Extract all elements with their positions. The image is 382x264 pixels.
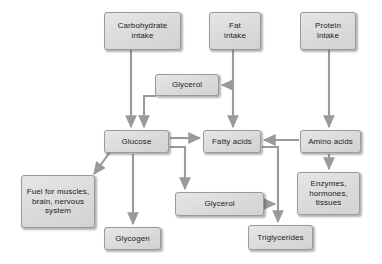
flowchart-diagram: Carbohydrateintake Fatintake Proteininta…	[0, 0, 382, 264]
node-triglycerides: Triglycerides	[248, 225, 313, 250]
node-label-glycerol-upper: Glycerol	[170, 80, 204, 90]
node-label-carbohydrate-intake: Carbohydrateintake	[116, 21, 170, 41]
edge-glucose-to-glycerol-lower	[170, 147, 185, 189]
node-label-fat-intake: Fatintake	[222, 21, 248, 41]
edge-fatty-acids-to-triglycerides	[262, 147, 278, 222]
node-fat-intake: Fatintake	[209, 12, 261, 50]
node-label-glycogen: Glycogen	[113, 234, 152, 244]
node-glycerol-lower: Glycerol	[175, 192, 264, 216]
node-glycerol-upper: Glycerol	[155, 74, 219, 96]
node-label-enzymes-hormones-tissues: Enzymes,hormones,tissues	[307, 179, 350, 208]
edge-glycerol-upper-to-glucose	[144, 96, 156, 127]
node-amino-acids: Amino acids	[300, 130, 361, 153]
node-fuel-for-muscles: Fuel for muscles,brain, nervoussystem	[21, 175, 95, 228]
node-carbohydrate-intake: Carbohydrateintake	[104, 12, 181, 50]
node-label-fatty-acids: Fatty acids	[210, 137, 254, 147]
node-protein-intake: Proteinintake	[300, 12, 356, 50]
node-label-triglycerides: Triglycerides	[255, 233, 305, 243]
node-label-protein-intake: Proteinintake	[313, 21, 343, 41]
node-label-glycerol-lower: Glycerol	[202, 199, 236, 209]
node-label-glucose: Glucose	[119, 137, 153, 147]
node-label-fuel-for-muscles: Fuel for muscles,brain, nervoussystem	[25, 187, 92, 216]
node-glucose: Glucose	[104, 130, 169, 153]
node-enzymes-hormones-tissues: Enzymes,hormones,tissues	[297, 172, 360, 215]
edge-glucose-to-fuel	[94, 152, 110, 174]
node-label-amino-acids: Amino acids	[306, 137, 355, 147]
node-glycogen: Glycogen	[104, 227, 161, 250]
node-fatty-acids: Fatty acids	[203, 130, 261, 153]
